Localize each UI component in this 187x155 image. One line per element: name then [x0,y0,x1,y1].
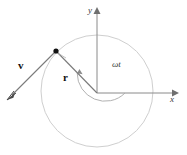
velocity-vector-line [12,51,56,95]
diagram-canvas [0,0,187,155]
x-axis-label: x [170,95,174,104]
radius-vector-label: r [63,72,68,83]
particle-point [53,48,58,53]
y-axis-label: y [88,6,92,15]
circular-motion-figure: y x v r ωt [0,0,187,155]
angle-label: ωt [112,60,121,69]
angle-arc [77,73,125,101]
y-axis-arrowhead-icon [94,7,101,14]
velocity-vector-label: v [18,60,24,71]
